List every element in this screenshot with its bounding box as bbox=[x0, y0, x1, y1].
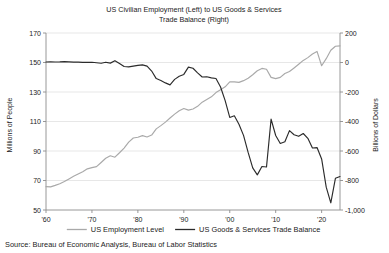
y-axis-left-label: Millions of People bbox=[6, 97, 14, 152]
chart-figure: US Civilian Employment (Left) to US Good… bbox=[0, 0, 389, 253]
x-tick-label: '60 bbox=[41, 216, 50, 223]
chart-title-line1: US Civilian Employment (Left) to US Good… bbox=[106, 5, 282, 14]
y2-tick-label: -200 bbox=[345, 89, 359, 96]
y2-tick-label: 200 bbox=[345, 30, 357, 37]
y-tick-label: 70 bbox=[33, 177, 41, 184]
y2-tick-label: -400 bbox=[345, 118, 359, 125]
source-note: Source: Bureau of Economic Analysis, Bur… bbox=[5, 240, 217, 249]
y2-tick-label: 0 bbox=[345, 59, 349, 66]
y-tick-label: 150 bbox=[29, 59, 41, 66]
y-tick-label: 170 bbox=[29, 30, 41, 37]
y-tick-label: 110 bbox=[30, 118, 41, 125]
x-tick-label: '20 bbox=[317, 216, 326, 223]
legend-label: US Goods & Services Trade Balance bbox=[199, 225, 320, 234]
y2-tick-label: -600 bbox=[345, 148, 359, 155]
y2-tick-label: -1,000 bbox=[345, 207, 365, 214]
legend-label: US Employment Level bbox=[91, 225, 164, 234]
y-tick-label: 50 bbox=[33, 207, 41, 214]
x-tick-label: '10 bbox=[271, 216, 280, 223]
chart-title-line2: Trade Balance (Right) bbox=[159, 15, 229, 24]
x-tick-label: '80 bbox=[133, 216, 142, 223]
y-tick-label: 130 bbox=[29, 89, 41, 96]
figure-background bbox=[0, 0, 389, 253]
y-axis-right-label: Billions of Dollars bbox=[372, 98, 379, 152]
y-tick-label: 90 bbox=[33, 148, 41, 155]
x-tick-label: '90 bbox=[179, 216, 188, 223]
x-tick-label: '00 bbox=[225, 216, 234, 223]
y2-tick-label: -800 bbox=[345, 177, 359, 184]
x-tick-label: '70 bbox=[87, 216, 96, 223]
